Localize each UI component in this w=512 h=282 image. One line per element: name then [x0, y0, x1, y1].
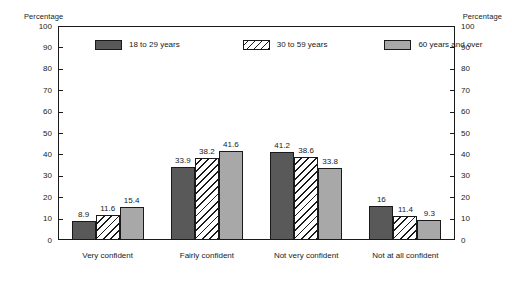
- y-tick-label: 50: [30, 128, 52, 139]
- y-tick-label: 0: [461, 235, 483, 246]
- y-tick-label: 80: [30, 63, 52, 74]
- bar-value-label: 9.3: [411, 209, 447, 218]
- tick-mark: [450, 133, 455, 134]
- bar-value-label: 41.6: [213, 140, 249, 149]
- tick-mark: [58, 197, 63, 198]
- tick-mark: [450, 154, 455, 155]
- y-tick-label: 10: [30, 213, 52, 224]
- y-tick-label: 70: [461, 85, 483, 96]
- legend-swatch-icon: [243, 40, 270, 50]
- tick-mark: [450, 90, 455, 91]
- bar: [294, 157, 318, 240]
- y-tick-label: 90: [30, 42, 52, 53]
- bar: [393, 216, 417, 240]
- y-tick-label: 60: [461, 106, 483, 117]
- bar: [417, 220, 441, 240]
- tick-mark: [450, 69, 455, 70]
- y-tick-label: 40: [30, 149, 52, 160]
- tick-mark: [450, 197, 455, 198]
- y-tick-label: 20: [461, 192, 483, 203]
- tick-mark: [58, 154, 63, 155]
- bar: [195, 158, 219, 240]
- bar-value-label: 15.4: [114, 196, 150, 205]
- bar: [270, 152, 294, 240]
- y-tick-label: 100: [461, 21, 483, 32]
- tick-mark: [58, 69, 63, 70]
- legend-label: 18 to 29 years: [129, 40, 180, 50]
- tick-mark: [58, 133, 63, 134]
- tick-mark: [58, 176, 63, 177]
- bar-value-label: 33.8: [312, 157, 348, 166]
- y-tick-label: 10: [461, 213, 483, 224]
- y-tick-label: 30: [30, 170, 52, 181]
- y-tick-label: 80: [461, 63, 483, 74]
- legend-swatch-icon: [384, 40, 411, 50]
- tick-mark: [450, 112, 455, 113]
- tick-mark: [450, 176, 455, 177]
- bar-chart: Percentage Percentage 100908070605040302…: [0, 0, 512, 282]
- legend-swatch-icon: [95, 40, 122, 50]
- tick-mark: [58, 47, 63, 48]
- y-tick-label: 70: [30, 85, 52, 96]
- y-tick-label: 60: [30, 106, 52, 117]
- y-tick-label: 30: [461, 170, 483, 181]
- y-tick-label: 100: [30, 21, 52, 32]
- bar: [318, 168, 342, 240]
- bar-value-label: 33.9: [165, 156, 201, 165]
- chart-legend: 18 to 29 years30 to 59 years60 years and…: [95, 40, 482, 50]
- tick-mark: [58, 219, 63, 220]
- x-axis-label: Not at all confident: [346, 251, 465, 261]
- bar-value-label: 38.6: [288, 146, 324, 155]
- tick-mark: [58, 90, 63, 91]
- legend-item: 18 to 29 years: [95, 40, 180, 50]
- legend-label: 60 years and over: [418, 40, 482, 50]
- tick-mark: [450, 219, 455, 220]
- legend-item: 60 years and over: [384, 40, 482, 50]
- bar-value-label: 16: [363, 195, 399, 204]
- bar: [219, 151, 243, 240]
- legend-label: 30 to 59 years: [277, 40, 328, 50]
- bar: [171, 167, 195, 240]
- bar-value-label: 11.6: [90, 204, 126, 213]
- tick-mark: [58, 112, 63, 113]
- y-tick-label: 40: [461, 149, 483, 160]
- y-tick-label: 20: [30, 192, 52, 203]
- y-tick-label: 0: [30, 235, 52, 246]
- bar: [72, 221, 96, 240]
- y-tick-label: 50: [461, 128, 483, 139]
- legend-item: 30 to 59 years: [243, 40, 328, 50]
